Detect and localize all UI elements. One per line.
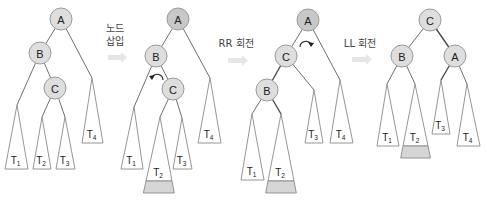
tree-4-after-ll: T1T2T3T4CBA <box>377 9 480 158</box>
rotate-counterclockwise-icon <box>149 74 163 80</box>
subtree-t1: T1 <box>5 105 28 169</box>
subtree-t3: T3 <box>432 80 450 134</box>
step-label: RR 회전 <box>218 38 253 49</box>
node-a: A <box>444 45 466 67</box>
avl-rotation-diagram: 노드삽입RR 회전LL 회전 T1T2T3T4ABCT1T2T3T4ABCT1T… <box>0 0 487 201</box>
inserted-node-area <box>143 181 174 193</box>
step-arrow-icon <box>108 52 127 63</box>
subtree-t4: T4 <box>330 80 353 143</box>
node-c: C <box>162 78 184 100</box>
node-b: B <box>391 45 413 67</box>
subtree-t3: T3 <box>305 90 323 143</box>
node-label: C <box>282 51 290 63</box>
step-label: 노드 <box>106 23 124 34</box>
step-label: 삽입 <box>106 35 124 47</box>
node-label: A <box>451 51 459 63</box>
subtree-t4: T4 <box>82 78 103 143</box>
tree-2-after-insert: T1T2T3T4ABC <box>121 8 221 193</box>
step-insert: 노드삽입 <box>106 23 127 63</box>
subtree-t1: T1 <box>377 84 399 146</box>
subtree-t4: T4 <box>198 78 221 143</box>
subtree-t1: T1 <box>121 107 143 169</box>
node-label: A <box>304 15 312 27</box>
tree-1-initial: T1T2T3T4ABC <box>5 8 103 169</box>
inserted-node-area <box>266 181 297 193</box>
node-b: B <box>29 42 51 64</box>
trees: T1T2T3T4ABCT1T2T3T4ABCT1T2T3T4ACBT1T2T3T… <box>5 8 480 193</box>
node-a: A <box>297 9 319 31</box>
node-label: B <box>36 48 43 60</box>
rotate-clockwise-icon <box>300 41 314 47</box>
node-b: B <box>145 45 167 67</box>
node-label: A <box>57 14 65 26</box>
subtree-t2: T2 <box>33 117 51 169</box>
subtree-t2: T2 <box>143 117 174 193</box>
subtree-t2: T2 <box>266 114 297 193</box>
inserted-node-area <box>401 146 431 158</box>
subtree-t1: T1 <box>241 114 264 180</box>
node-label: B <box>263 85 270 97</box>
tree-3-after-rr: T1T2T3T4ACB <box>241 9 353 193</box>
node-b: B <box>256 79 278 101</box>
node-c: C <box>44 77 66 99</box>
node-label: C <box>51 83 59 95</box>
subtree-t3: T3 <box>173 118 192 169</box>
step-label: LL 회전 <box>344 38 376 49</box>
step-rr: RR 회전 <box>218 38 253 66</box>
node-label: B <box>398 51 405 63</box>
step-ll: LL 회전 <box>344 38 376 65</box>
subtree-t4: T4 <box>457 84 480 146</box>
node-label: C <box>426 15 434 27</box>
subtree-t2: T2 <box>401 84 431 158</box>
node-a: A <box>50 8 72 30</box>
node-c: C <box>419 9 441 31</box>
node-label: A <box>174 14 182 26</box>
node-label: C <box>169 84 177 96</box>
step-arrow-icon <box>228 55 248 66</box>
node-a: A <box>167 8 189 30</box>
node-c: C <box>275 45 297 67</box>
node-label: B <box>152 51 159 63</box>
subtree-t3: T3 <box>56 117 75 169</box>
step-arrow-icon <box>352 54 372 65</box>
